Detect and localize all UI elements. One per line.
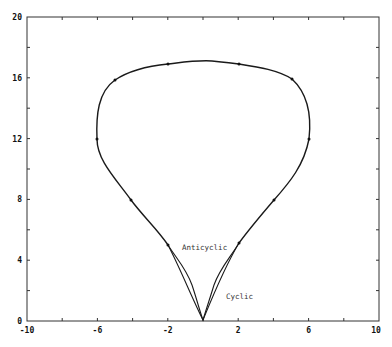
y-tick-label: 20 bbox=[12, 13, 22, 22]
cyclic-label: Cyclic bbox=[226, 292, 253, 301]
y-axis-labels: 0 4 8 12 16 20 bbox=[12, 13, 22, 326]
x-tick-label: -10 bbox=[20, 326, 35, 335]
anticyclic-label: Anticyclic bbox=[182, 243, 227, 252]
y-tick-label: 16 bbox=[12, 74, 22, 83]
data-markers bbox=[96, 63, 311, 247]
x-tick-label: 2 bbox=[236, 326, 241, 335]
cyclic-curve bbox=[168, 243, 239, 320]
loop-curve bbox=[97, 61, 310, 245]
x-tick-label: 10 bbox=[371, 326, 381, 335]
plot-frame bbox=[27, 17, 379, 321]
y-tick-label: 4 bbox=[17, 256, 22, 265]
anticyclic-curve bbox=[168, 243, 239, 320]
y-tick-label: 8 bbox=[17, 195, 22, 204]
y-tick-label: 0 bbox=[17, 317, 22, 326]
x-tick-label: 6 bbox=[306, 326, 311, 335]
x-tick-label: -6 bbox=[93, 326, 103, 335]
x-tick-label: -2 bbox=[163, 326, 173, 335]
x-axis-labels: -10 -6 -2 2 6 10 bbox=[20, 326, 381, 335]
y-tick-label: 12 bbox=[12, 135, 22, 144]
loop-chart: 0 4 8 12 16 20 -10 -6 -2 2 6 10 Anticycl… bbox=[0, 0, 392, 347]
x-axis-ticks bbox=[62, 17, 344, 321]
y-axis-ticks bbox=[27, 47, 379, 290]
